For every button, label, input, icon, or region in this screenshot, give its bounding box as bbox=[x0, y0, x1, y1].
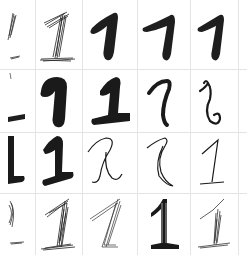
digit-one-glyph bbox=[190, 132, 238, 193]
digit-one-glyph bbox=[82, 0, 137, 69]
digit-cell bbox=[82, 69, 137, 132]
digit-one-glyph bbox=[0, 69, 35, 132]
digit-one-glyph bbox=[190, 69, 238, 132]
digit-cell bbox=[190, 69, 238, 132]
digit-cell bbox=[190, 0, 238, 69]
digit-cell bbox=[190, 193, 238, 255]
digit-cell bbox=[137, 132, 190, 193]
digit-cell bbox=[137, 69, 190, 132]
digit-grid bbox=[0, 0, 247, 255]
digit-cell bbox=[137, 193, 190, 255]
digit-one-glyph bbox=[137, 193, 190, 255]
digit-cell bbox=[35, 0, 82, 69]
digit-one-glyph bbox=[82, 69, 137, 132]
digit-cell bbox=[35, 69, 82, 132]
digit-cell bbox=[35, 193, 82, 255]
digit-cell bbox=[0, 193, 35, 255]
digit-cell bbox=[0, 0, 35, 69]
digit-one-glyph bbox=[35, 132, 82, 193]
digit-cell bbox=[82, 132, 137, 193]
digit-one-glyph bbox=[82, 193, 137, 255]
digit-one-glyph bbox=[35, 69, 82, 132]
digit-cell bbox=[0, 69, 35, 132]
digit-one-glyph bbox=[82, 132, 137, 193]
grid-line bbox=[238, 0, 239, 255]
digit-one-glyph bbox=[0, 193, 35, 255]
digit-one-glyph bbox=[190, 193, 238, 255]
digit-one-glyph bbox=[137, 0, 190, 69]
digit-one-glyph bbox=[35, 193, 82, 255]
digit-cell bbox=[35, 132, 82, 193]
digit-one-glyph bbox=[190, 0, 238, 69]
digit-cell bbox=[0, 132, 35, 193]
digit-one-glyph bbox=[137, 132, 190, 193]
digit-cell bbox=[137, 0, 190, 69]
digit-cell bbox=[82, 193, 137, 255]
digit-cell bbox=[82, 0, 137, 69]
digit-one-glyph bbox=[137, 69, 190, 132]
digit-one-glyph bbox=[35, 0, 82, 69]
digit-cell bbox=[190, 132, 238, 193]
digit-one-glyph bbox=[0, 132, 35, 193]
digit-one-glyph bbox=[0, 0, 35, 69]
